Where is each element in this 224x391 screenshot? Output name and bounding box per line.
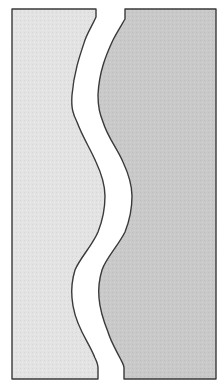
left-panel (12, 9, 105, 379)
wavy-split-diagram (0, 0, 224, 391)
right-panel (98, 9, 216, 379)
diagram-canvas (0, 0, 224, 391)
